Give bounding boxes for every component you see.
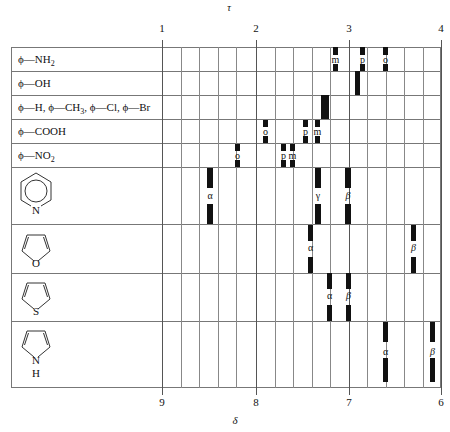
grid-major-4 xyxy=(441,40,442,395)
tau-tick-4: 4 xyxy=(438,22,444,34)
peak-bar-furan-alpha xyxy=(308,225,313,241)
row-divider xyxy=(11,321,441,322)
row-divider xyxy=(11,273,441,274)
peak-label-thiophene-beta: β xyxy=(346,290,351,301)
row-label-phenol: ϕ—OH xyxy=(18,77,51,89)
pyrrole-structure-icon: N H xyxy=(18,324,54,384)
peak-label-pyridine-gamma: γ xyxy=(316,190,320,201)
svg-text:S: S xyxy=(33,305,39,317)
peak-bar-pyridine-alpha xyxy=(207,168,213,188)
peak-bar-thiophene-alpha xyxy=(327,273,332,289)
delta-axis-title: δ xyxy=(232,414,237,426)
peak-label-pyrrole-beta: β xyxy=(430,346,435,357)
tau-tick-3: 3 xyxy=(346,22,352,34)
svg-text:H: H xyxy=(32,367,40,379)
peak-label-pyridine-beta: β xyxy=(346,190,351,201)
peak-bar-nitro-ortho xyxy=(235,160,240,167)
grid-line xyxy=(312,47,313,388)
peak-bar-pyridine-beta xyxy=(345,168,351,188)
delta-tick-9: 9 xyxy=(159,396,165,408)
grid-major-2 xyxy=(256,40,257,395)
delta-tick-8: 8 xyxy=(253,396,259,408)
grid-line xyxy=(275,47,276,388)
peak-bar-nitro-para xyxy=(281,160,286,167)
grid-line xyxy=(423,47,424,388)
row-divider xyxy=(11,224,441,225)
peak-bar-pyridine-alpha xyxy=(207,204,213,224)
row-divider xyxy=(11,95,441,96)
row-divider xyxy=(11,143,441,144)
peak-bar-thiophene-beta xyxy=(346,273,351,289)
peak-bar-benzoic-meta xyxy=(315,136,320,143)
peak-bar-thiophene-beta xyxy=(346,305,351,321)
tau-tick-2: 2 xyxy=(253,22,259,34)
tau-axis-title: τ xyxy=(227,2,231,13)
delta-tick-7: 7 xyxy=(346,396,352,408)
shift-table xyxy=(11,47,441,388)
svg-text:O: O xyxy=(32,257,40,269)
grid-line xyxy=(181,47,182,388)
svg-text:N: N xyxy=(32,354,40,366)
peak-bar-pyrrole-alpha xyxy=(383,322,388,342)
tau-tick-1: 1 xyxy=(159,22,165,34)
row-label-benzene-derivatives: ϕ—H, ϕ—CH3, ϕ—Cl, ϕ—Br xyxy=(18,101,150,116)
peak-bar-pyrrole-beta xyxy=(430,322,435,342)
peak-bar-benzene-derivatives xyxy=(321,95,329,119)
peak-bar-benzoic-ortho xyxy=(263,136,268,143)
row-divider xyxy=(11,71,441,72)
peak-bar-benzoic-para xyxy=(303,136,308,143)
row-divider xyxy=(11,119,441,120)
delta-tick-6: 6 xyxy=(438,396,444,408)
peak-label-furan-beta: β xyxy=(411,242,416,253)
row-divider xyxy=(11,167,441,168)
grid-line xyxy=(293,47,294,388)
thiophene-structure-icon: S xyxy=(18,276,54,320)
peak-bar-phenol xyxy=(355,71,360,95)
peak-bar-aniline-para xyxy=(360,64,365,71)
grid-line xyxy=(236,47,237,388)
peak-bar-pyridine-gamma xyxy=(315,204,321,224)
grid-line xyxy=(330,47,331,388)
peak-bar-aniline-meta xyxy=(333,64,338,71)
row-label-aniline: ϕ—NH2 xyxy=(18,53,55,68)
peak-bar-furan-beta xyxy=(411,257,416,273)
peak-bar-furan-beta xyxy=(411,225,416,241)
grid-major-1 xyxy=(162,40,163,395)
peak-label-pyridine-alpha: α xyxy=(207,190,212,201)
peak-bar-pyrrole-beta xyxy=(430,358,435,382)
peak-bar-pyridine-gamma xyxy=(315,168,321,188)
grid-line xyxy=(367,47,368,388)
peak-bar-furan-alpha xyxy=(308,257,313,273)
row-label-nitrobenzene: ϕ—NO2 xyxy=(18,149,55,164)
peak-label-furan-alpha: α xyxy=(308,242,313,253)
grid-line xyxy=(404,47,405,388)
row-label-benzoic-acid: ϕ—COOH xyxy=(18,125,66,137)
peak-bar-pyrrole-alpha xyxy=(383,358,388,382)
grid-line xyxy=(218,47,219,388)
peak-label-pyrrole-alpha: α xyxy=(383,346,388,357)
furan-structure-icon: O xyxy=(18,228,54,272)
grid-line xyxy=(199,47,200,388)
peak-label-thiophene-alpha: α xyxy=(327,290,332,301)
peak-bar-thiophene-alpha xyxy=(327,305,332,321)
peak-bar-aniline-ortho xyxy=(383,64,388,71)
pyridine-structure-icon: N xyxy=(18,170,54,220)
peak-bar-pyridine-beta xyxy=(345,204,351,224)
peak-bar-nitro-meta xyxy=(290,160,295,167)
svg-text:N: N xyxy=(32,204,40,216)
